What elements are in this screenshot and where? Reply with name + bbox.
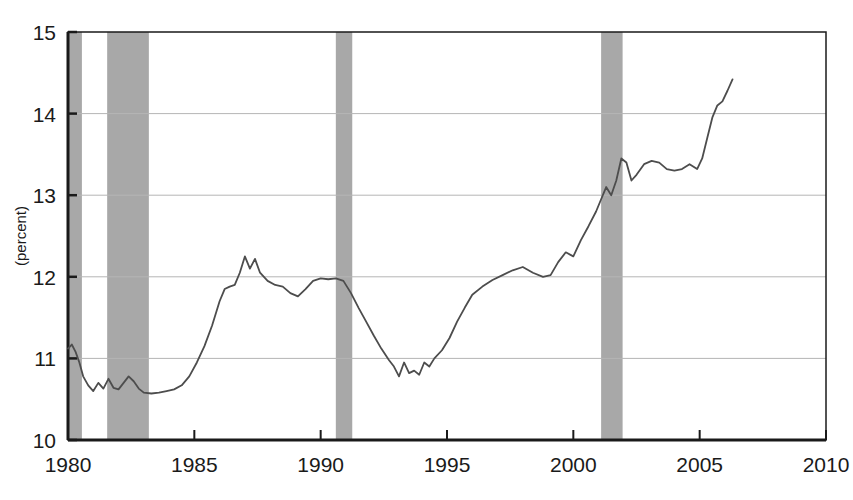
y-tick-label: 11 [34, 347, 56, 370]
x-axis-tick-labels: 1980198519901995200020052010 [45, 453, 850, 476]
y-axis-tick-labels: 101112131415 [33, 21, 57, 452]
x-tick-label: 2000 [550, 453, 597, 476]
axes-frame [68, 32, 826, 440]
x-tick-label: 1995 [424, 453, 471, 476]
y-tick-label: 15 [33, 21, 56, 44]
line-chart: 101112131415 198019851990199520002005201… [0, 0, 853, 500]
x-tick-label: 2005 [676, 453, 723, 476]
x-tick-label: 1980 [45, 453, 92, 476]
y-tick-label: 13 [33, 184, 56, 207]
data-series-line [68, 79, 733, 393]
recession-band [68, 32, 82, 440]
y-tick-label: 12 [33, 266, 56, 289]
recession-band [107, 32, 149, 440]
chart-container: 101112131415 198019851990199520002005201… [0, 0, 853, 500]
y-axis-title: (percent) [12, 206, 29, 266]
recession-band [601, 32, 622, 440]
series-line-percent [68, 79, 733, 393]
gridlines [68, 114, 826, 359]
x-tick-label: 2010 [803, 453, 850, 476]
y-tick-label: 14 [33, 103, 57, 126]
x-tick-label: 1990 [297, 453, 344, 476]
plot-border [68, 32, 826, 440]
y-tick-label: 10 [33, 429, 56, 452]
recession-band [336, 32, 352, 440]
y-axis-title-label: (percent) [12, 206, 29, 266]
shaded-recession-bands [68, 32, 623, 440]
x-tick-label: 1985 [171, 453, 218, 476]
